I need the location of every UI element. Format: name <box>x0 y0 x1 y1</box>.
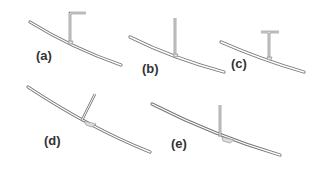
t-post <box>261 32 279 58</box>
panel-label-b: (b) <box>142 61 159 76</box>
panel-b: (b) <box>130 18 224 76</box>
panel-label-e: (e) <box>171 136 187 151</box>
hook-post <box>70 13 86 42</box>
panel-d: (d) <box>28 87 150 152</box>
panel-label-a: (a) <box>36 48 52 63</box>
weld <box>267 57 272 60</box>
weld <box>173 54 178 57</box>
panel-c: (c) <box>221 32 304 72</box>
panel-e: (e) <box>152 104 280 155</box>
panel-a: (a) <box>30 13 121 65</box>
weld <box>68 41 73 44</box>
panel-label-d: (d) <box>44 133 61 148</box>
figure: (a) (b) (c) (d) (e) <box>0 0 318 171</box>
panel-label-c: (c) <box>231 56 247 71</box>
